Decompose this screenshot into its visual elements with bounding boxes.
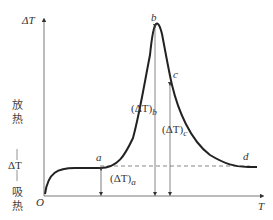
endo-label-2: 热 xyxy=(10,201,24,213)
x-axis-label: T xyxy=(258,200,264,212)
point-b: b xyxy=(151,11,157,23)
measure-b-label: (ΔT)b xyxy=(131,102,157,117)
measure-c-label: (ΔT)c xyxy=(162,123,187,138)
measure-a-label: (ΔT)a xyxy=(110,172,136,187)
endo-label-1: 吸 xyxy=(10,187,24,199)
origin-label: O xyxy=(36,196,44,208)
point-a: a xyxy=(96,151,102,163)
side-delta-t: ΔT xyxy=(8,159,22,171)
y-axis-label: ΔT xyxy=(22,14,35,26)
point-d: d xyxy=(243,150,249,162)
exo-label-2: 热 xyxy=(10,114,24,126)
exo-label-1: 放 xyxy=(10,100,24,112)
point-c: c xyxy=(173,68,178,80)
